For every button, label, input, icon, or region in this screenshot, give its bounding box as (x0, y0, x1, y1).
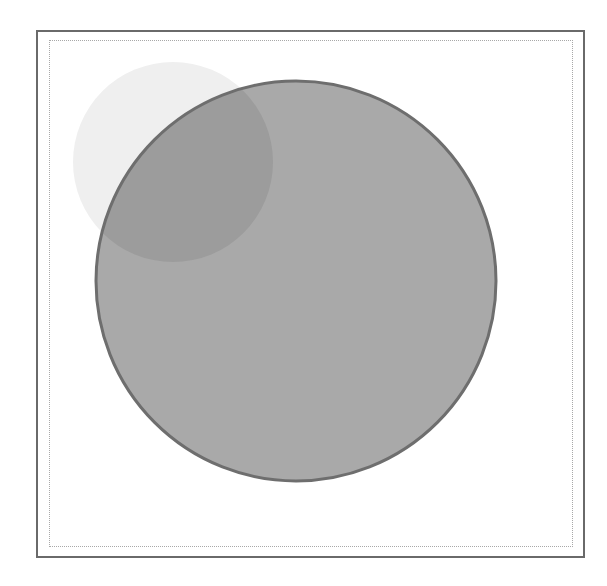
diagram-canvas (0, 0, 607, 586)
